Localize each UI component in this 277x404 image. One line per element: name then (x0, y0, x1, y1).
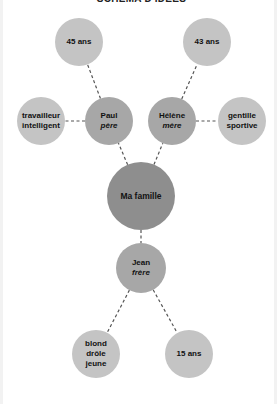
person-node-paul: Paul père (85, 97, 133, 145)
person-node-jean: Jean frère (116, 243, 166, 293)
attribute-text: gentille (228, 111, 256, 121)
attribute-text: blond (85, 339, 107, 349)
attribute-node-jean-age: 15 ans (165, 330, 213, 378)
attribute-text: travailleur (22, 111, 60, 121)
dashed-link (88, 64, 101, 98)
dashed-link (154, 143, 163, 164)
dashed-link (107, 290, 129, 333)
attribute-text: intelligent (22, 121, 60, 131)
attribute-node-helene-traits: gentille sportive (218, 97, 266, 145)
person-name: Paul (101, 111, 118, 121)
center-label: Ma famille (120, 191, 161, 201)
attribute-node-jean-traits: blond drôle jeune (72, 330, 120, 378)
person-role: frère (132, 268, 150, 278)
attribute-text: 45 ans (67, 37, 92, 47)
dashed-link (153, 290, 177, 333)
person-role: père (101, 121, 118, 131)
attribute-text: sportive (226, 121, 257, 131)
person-node-helene: Hélène mère (148, 97, 196, 145)
dashed-link (118, 143, 127, 165)
attribute-node-paul-age: 45 ans (55, 18, 103, 66)
attribute-text: 15 ans (177, 349, 202, 359)
person-role: mère (162, 121, 181, 131)
attribute-text: 43 ans (195, 37, 220, 47)
dashed-link (182, 64, 198, 99)
attribute-node-paul-traits: travailleur intelligent (17, 97, 65, 145)
attribute-text: jeune (86, 359, 107, 369)
attribute-node-helene-age: 43 ans (183, 18, 231, 66)
person-name: Jean (132, 258, 150, 268)
diagram-canvas: SCHÉMA D'IDÉES Ma famille Paul père Hélè… (0, 0, 277, 404)
center-node-ma-famille: Ma famille (107, 162, 175, 230)
attribute-text: drôle (86, 349, 106, 359)
person-name: Hélène (159, 111, 185, 121)
